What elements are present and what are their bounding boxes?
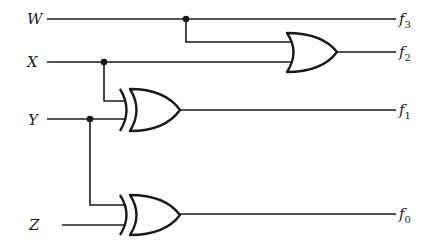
xor-gate-2	[120, 195, 180, 235]
input-label-y: Y	[28, 111, 40, 129]
or-gate	[287, 33, 337, 72]
input-label-w: W	[27, 10, 44, 28]
output-label-f2: f2	[398, 43, 411, 63]
xor-gate-1	[120, 89, 180, 131]
input-label-z: Z	[28, 216, 40, 234]
logic-circuit-diagram: W X Y Z f3 f2 f1 f0	[0, 0, 439, 249]
junction-dot-y	[87, 116, 94, 123]
output-label-f1: f1	[398, 101, 411, 121]
junction-dot-w	[183, 16, 190, 23]
wire-w-branch	[186, 19, 292, 42]
input-label-x: X	[26, 53, 39, 71]
output-label-f3: f3	[398, 10, 411, 30]
output-label-f0: f0	[398, 205, 411, 225]
junction-dot-x	[101, 59, 108, 66]
wire-y-branch	[90, 119, 126, 205]
